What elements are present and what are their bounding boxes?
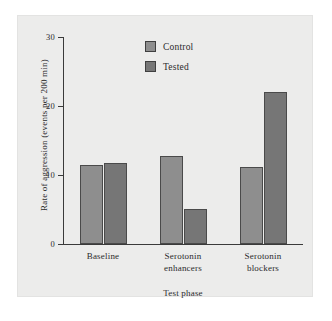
legend-label-tested: Tested — [163, 62, 189, 72]
y-tick-mark — [58, 244, 63, 245]
legend-swatch-control-icon — [145, 41, 156, 52]
x-axis-title: Test phase — [63, 288, 303, 298]
bar-control-0 — [80, 165, 103, 244]
category-label-0: Baseline — [63, 250, 143, 262]
category-label-line: blockers — [223, 262, 303, 274]
category-label-1: Serotoninenhancers — [143, 250, 223, 274]
y-tick-mark — [58, 175, 63, 176]
category-label-line: Baseline — [63, 250, 143, 262]
legend-item-tested: Tested — [145, 58, 193, 75]
chart-legend: Control Tested — [145, 38, 193, 78]
category-label-2: Serotoninblockers — [223, 250, 303, 274]
category-label-line: Serotonin — [143, 250, 223, 262]
y-tick-mark — [58, 37, 63, 38]
bar-control-1 — [160, 156, 183, 244]
bar-tested-0 — [104, 163, 127, 244]
chart-panel: 0102030 Rate of aggression (events per 2… — [18, 16, 312, 296]
legend-swatch-tested-icon — [145, 61, 156, 72]
figure-canvas: 0102030 Rate of aggression (events per 2… — [0, 0, 332, 321]
category-label-line: Serotonin — [223, 250, 303, 262]
y-axis-line — [63, 37, 64, 245]
category-label-line: enhancers — [143, 262, 223, 274]
bar-tested-1 — [184, 209, 207, 244]
bar-control-2 — [240, 167, 263, 244]
y-tick-mark — [58, 106, 63, 107]
bar-tested-2 — [264, 92, 287, 244]
legend-label-control: Control — [163, 42, 193, 52]
x-axis-line — [63, 244, 303, 245]
legend-item-control: Control — [145, 38, 193, 55]
y-tick-label: 0 — [50, 239, 55, 249]
y-axis-title: Rate of aggression (events per 200 min) — [39, 35, 49, 235]
plot-area: 0102030 Rate of aggression (events per 2… — [18, 16, 312, 296]
